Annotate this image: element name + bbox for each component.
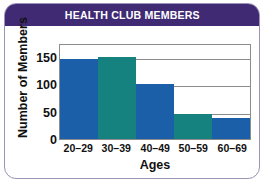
- plot-area: [59, 44, 251, 140]
- chart-card: HEALTH CLUB MEMBERS Number of Members 05…: [4, 3, 260, 179]
- bar: [98, 57, 136, 139]
- x-axis-tick-label: 60–69: [213, 142, 250, 154]
- x-axis-tick-label: 20–29: [60, 142, 97, 154]
- chart-title-bar: HEALTH CLUB MEMBERS: [5, 4, 259, 26]
- y-axis-tick-labels: 050100150: [27, 44, 57, 140]
- bar: [174, 114, 212, 139]
- y-axis-tick-label: 0: [27, 134, 57, 147]
- y-axis-tick-label: 150: [27, 51, 57, 64]
- bar-series: [60, 45, 250, 139]
- x-axis-tick-label: 40–49: [137, 142, 174, 154]
- bar-chart: Number of Members 050100150 20–2930–3940…: [5, 26, 260, 179]
- bar: [212, 118, 250, 139]
- bar: [60, 59, 98, 139]
- x-axis-tick-label: 50–59: [175, 142, 212, 154]
- page-title: HEALTH CLUB MEMBERS: [65, 9, 200, 21]
- bar: [136, 84, 174, 139]
- x-axis-title: Ages: [59, 158, 251, 172]
- y-axis-tick-label: 50: [27, 106, 57, 119]
- x-axis-tick-labels: 20–2930–3940–4950–5960–69: [59, 142, 251, 154]
- y-axis-tick-label: 100: [27, 79, 57, 92]
- x-axis-tick-label: 30–39: [98, 142, 135, 154]
